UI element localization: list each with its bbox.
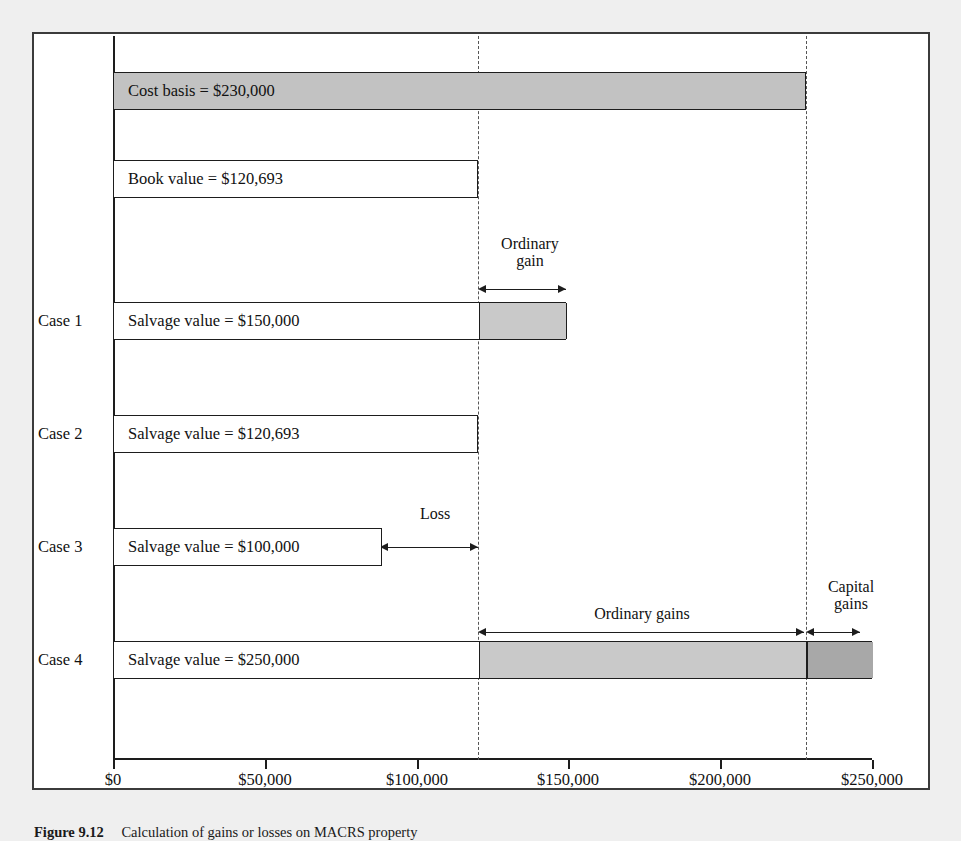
x-tick-label-0: $0 <box>105 770 122 790</box>
bar-case-4: Salvage value = $250,000 <box>113 641 872 679</box>
arrow-head-case4-ordinary-right <box>796 628 804 636</box>
bar-label-case-4: Salvage value = $250,000 <box>128 650 300 670</box>
arrow-head-case4-ordinary-left <box>478 628 486 636</box>
annotation-case1-ordinary-gain: Ordinary gain <box>478 236 582 270</box>
arrow-case4-ordinary-gains <box>480 632 804 633</box>
annotation-case4-capital-gains: Capital gains <box>808 579 894 613</box>
x-tick-100000 <box>417 760 419 769</box>
arrow-head-case1-left <box>478 285 486 293</box>
segment-case4-capital-gains <box>807 642 873 678</box>
case-label-case-1: Case 1 <box>38 311 82 331</box>
figure-caption-text: Calculation of gains or losses on MACRS … <box>121 824 417 840</box>
figure-caption-number: Figure 9.12 <box>34 824 104 840</box>
annotation-case4-capital-gains-line1: Capital <box>828 578 874 595</box>
bar-case-2: Salvage value = $120,693 <box>113 415 478 453</box>
x-tick-250000 <box>872 760 874 769</box>
x-tick-label-50000: $50,000 <box>238 770 292 790</box>
x-tick-50000 <box>265 760 267 769</box>
bar-case-1: Salvage value = $150,000 <box>113 302 566 340</box>
bar-label-case-2: Salvage value = $120,693 <box>128 424 300 444</box>
bar-label-case-1: Salvage value = $150,000 <box>128 311 300 331</box>
bar-label-cost-basis: Cost basis = $230,000 <box>128 81 275 101</box>
arrow-head-case4-capital-left <box>806 628 814 636</box>
x-axis-line <box>113 758 872 760</box>
plot-area: Cost basis = $230,000 Book value = $120,… <box>34 34 928 788</box>
x-tick-label-250000: $250,000 <box>841 770 903 790</box>
x-tick-label-150000: $150,000 <box>537 770 599 790</box>
annotation-case4-capital-gains-line2: gains <box>834 595 868 612</box>
annotation-case1-ordinary-gain-line2: gain <box>516 252 544 269</box>
bar-book-value: Book value = $120,693 <box>113 160 478 198</box>
x-tick-label-200000: $200,000 <box>689 770 751 790</box>
bar-cost-basis: Cost basis = $230,000 <box>113 72 806 110</box>
arrow-case3-loss <box>382 547 478 548</box>
annotation-case4-ordinary-gains: Ordinary gains <box>478 606 806 623</box>
arrow-case1-ordinary-gain <box>480 289 566 290</box>
arrow-head-case1-right <box>558 285 566 293</box>
x-tick-0 <box>113 760 115 769</box>
annotation-case3-loss: Loss <box>392 506 478 523</box>
bar-label-book-value: Book value = $120,693 <box>128 169 283 189</box>
case-label-case-2: Case 2 <box>38 424 82 444</box>
x-tick-200000 <box>720 760 722 769</box>
chart-frame: Cost basis = $230,000 Book value = $120,… <box>32 32 930 790</box>
bar-label-case-3: Salvage value = $100,000 <box>128 537 300 557</box>
figure-caption: Figure 9.12 Calculation of gains or loss… <box>34 824 934 841</box>
x-tick-150000 <box>568 760 570 769</box>
annotation-case1-ordinary-gain-line1: Ordinary <box>501 235 559 252</box>
bar-case-3: Salvage value = $100,000 <box>113 528 382 566</box>
arrow-head-case3-right <box>470 543 478 551</box>
segment-case1-ordinary-gain <box>479 303 567 339</box>
segment-case4-ordinary-gains <box>479 642 807 678</box>
case-label-case-3: Case 3 <box>38 537 82 557</box>
arrow-head-case4-capital-right <box>852 628 860 636</box>
figure-root: Cost basis = $230,000 Book value = $120,… <box>0 0 961 841</box>
case-label-case-4: Case 4 <box>38 650 82 670</box>
x-tick-label-100000: $100,000 <box>386 770 448 790</box>
